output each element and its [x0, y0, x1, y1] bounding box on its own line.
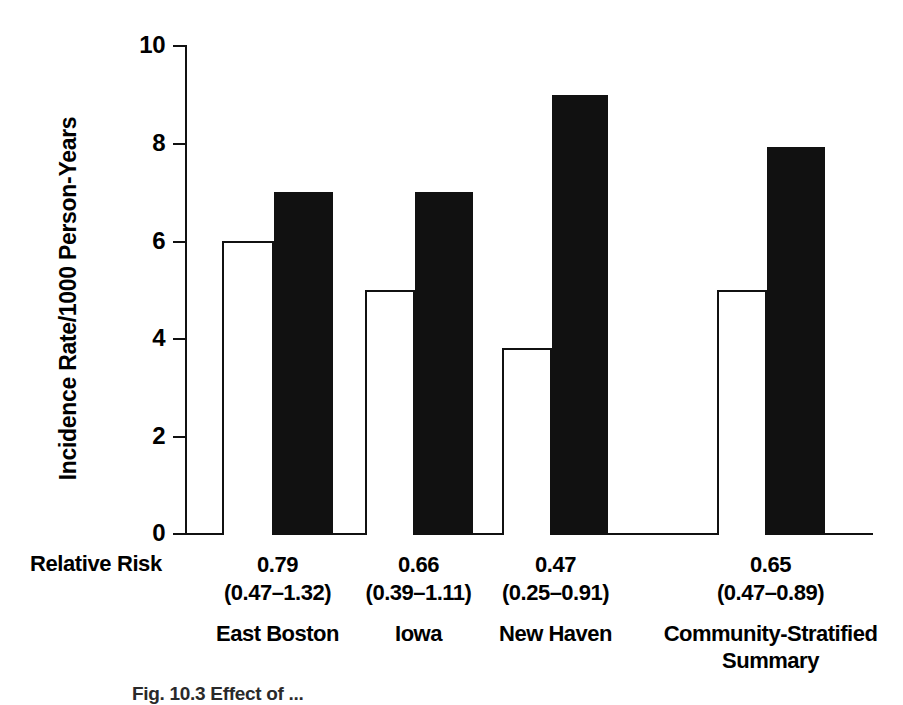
bar-filled-iowa [415, 192, 473, 535]
category-label-summary: Community-Stratified Summary [663, 621, 878, 675]
relative-risk-new-haven: 0.47 (0.25–0.91) [463, 551, 648, 607]
bar-open-new-haven [502, 348, 552, 535]
y-tick-label-4: 4 [105, 326, 165, 350]
y-tick-mark-2 [173, 436, 185, 438]
category-label-summary-line2: Summary [722, 648, 819, 673]
y-tick-mark-4 [173, 338, 185, 340]
relative-risk-row-label: Relative Risk [30, 551, 162, 577]
y-tick-label-0: 0 [105, 521, 165, 545]
category-label-new-haven: New Haven [463, 621, 648, 648]
category-label-new-haven-line1: New Haven [499, 621, 612, 646]
y-tick-label-6: 6 [105, 229, 165, 253]
figure-caption: Fig. 10.3 Effect of ... [132, 683, 892, 705]
bar-open-east-boston [222, 241, 274, 535]
rr-ci-summary: (0.47–0.89) [678, 579, 863, 607]
y-tick-label-2: 2 [105, 424, 165, 448]
relative-risk-summary: 0.65 (0.47–0.89) [678, 551, 863, 607]
category-label-summary-line1: Community-Stratified [664, 621, 878, 646]
category-label-east-boston-line1: East Boston [216, 621, 339, 646]
category-label-iowa-line1: Iowa [395, 621, 442, 646]
rr-point-new-haven: 0.47 [463, 551, 648, 579]
y-axis-line [185, 45, 187, 534]
rr-point-summary: 0.65 [678, 551, 863, 579]
bar-filled-new-haven [552, 95, 608, 535]
y-tick-label-8: 8 [105, 131, 165, 155]
y-tick-mark-8 [173, 143, 185, 145]
y-tick-mark-6 [173, 241, 185, 243]
y-tick-mark-0 [173, 533, 185, 535]
y-tick-mark-10 [173, 45, 185, 47]
bar-open-summary [717, 290, 767, 535]
rr-ci-new-haven: (0.25–0.91) [463, 579, 648, 607]
bar-filled-summary [767, 147, 825, 535]
bar-open-iowa [365, 290, 415, 535]
bar-filled-east-boston [274, 192, 333, 535]
y-tick-label-10: 10 [105, 33, 165, 57]
y-axis-title: Incidence Rate/1000 Person-Years [55, 89, 82, 509]
